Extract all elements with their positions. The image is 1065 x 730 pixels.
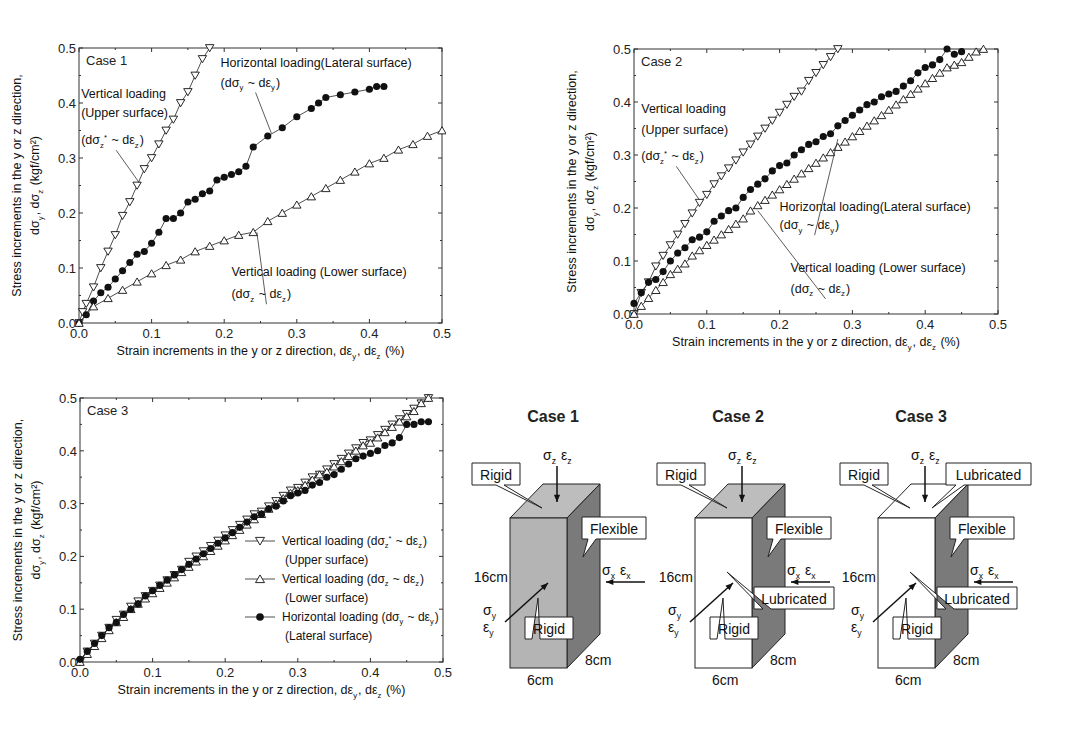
x-tick-label: 0.3: [289, 665, 307, 680]
marker-circle-filled: [206, 187, 213, 194]
marker-triangle-up: [834, 143, 842, 150]
marker-circle-filled: [164, 577, 171, 584]
eps-y-label: εy: [851, 619, 863, 638]
x-tick-label: 0.2: [771, 317, 789, 332]
marker-triangle-up: [885, 106, 893, 113]
marker-triangle-up: [724, 225, 732, 232]
marker-circle-filled: [120, 611, 127, 618]
front-lubricated-label: Lubricated: [761, 591, 826, 607]
marker-triangle-up: [220, 237, 228, 244]
marker-circle-filled: [322, 94, 329, 101]
marker-circle-filled: [113, 619, 120, 626]
marker-circle-filled: [308, 105, 315, 112]
marker-circle-filled: [885, 90, 892, 97]
marker-circle-filled: [199, 190, 206, 197]
x-tick-label: 0.5: [434, 665, 452, 680]
panel-title: Case 2: [641, 54, 682, 69]
x-tick-label: 0.1: [698, 317, 716, 332]
marker-triangle-up: [688, 252, 696, 259]
y-tick-label: 0.5: [59, 391, 77, 406]
diagram-title: Case 2: [712, 408, 764, 425]
marker-triangle-up: [863, 122, 871, 129]
diagram-case-3: Case 3σz εz RigidLubricatedFlexibleσx εx…: [840, 408, 1031, 688]
diagram-title: Case 1: [527, 408, 579, 425]
eps-y-label: εy: [668, 619, 680, 638]
top-rigid-label: Rigid: [665, 467, 697, 483]
marker-circle-filled: [163, 215, 170, 222]
marker-triangle-down: [118, 212, 126, 219]
marker-circle-filled: [105, 624, 112, 631]
top-rigid-label: Rigid: [848, 467, 880, 483]
marker-circle-filled: [265, 505, 272, 512]
marker-circle-filled: [798, 146, 805, 153]
y-tick-label: 0.4: [613, 95, 631, 110]
marker-triangle-down: [695, 199, 703, 206]
marker-circle-filled: [352, 455, 359, 462]
marker-circle-filled: [184, 198, 191, 205]
annotation-leader-line: [116, 150, 139, 183]
marker-circle-filled: [193, 555, 200, 562]
diagram-case-1: Case 1σz εz RigidFlexibleσx εx 16cmσy εy…: [472, 408, 646, 688]
panel-title: Case 3: [87, 403, 128, 418]
annotation-text: (dσy ~ dεy ): [780, 218, 840, 235]
legend-item: Vertical loading (dσz ~ dεz )(Lower surf…: [245, 572, 424, 605]
marker-circle-filled: [754, 181, 761, 188]
x-tick-label: 0.3: [288, 326, 306, 341]
svg-text:Stress increments in the y or: Stress increments in the y or z directio…: [11, 419, 25, 641]
marker-circle-filled: [236, 524, 243, 531]
marker-circle-filled: [630, 300, 637, 307]
marker-circle-filled: [91, 640, 98, 647]
marker-circle-filled: [149, 587, 156, 594]
svg-text:Stress increments in the y or: Stress increments in the y or z directio…: [565, 70, 579, 292]
marker-triangle-up: [957, 58, 965, 65]
marker-triangle-down: [710, 181, 718, 188]
marker-triangle-up: [877, 111, 885, 118]
marker-circle-filled: [381, 442, 388, 449]
marker-triangle-up: [892, 101, 900, 108]
marker-circle-filled: [849, 112, 856, 119]
annotation-text: (Upper surface): [81, 106, 168, 120]
chart-case-3: 0.00.10.20.30.40.50.00.10.20.30.40.5Stra…: [11, 391, 452, 700]
marker-circle-filled: [301, 487, 308, 494]
marker-circle-filled: [84, 648, 91, 655]
svg-text:dσy , dσz (kgf/cm²): dσy , dσz (kgf/cm²): [28, 136, 45, 235]
marker-triangle-up: [826, 149, 834, 156]
x-tick-label: 0.1: [144, 665, 162, 680]
marker-triangle-up: [921, 80, 929, 87]
marker-triangle-up: [950, 61, 958, 68]
x-axis-label: Strain increments in the y or z directio…: [118, 683, 406, 700]
marker-triangle-up: [936, 69, 944, 76]
marker-circle-filled: [410, 421, 417, 428]
marker-circle-filled: [213, 176, 220, 183]
marker-triangle-down: [133, 182, 141, 189]
marker-triangle-up: [855, 127, 863, 134]
y-tick-label: 0.5: [613, 42, 631, 57]
y-tick-label: 0.0: [58, 316, 76, 331]
marker-circle-filled: [148, 240, 155, 247]
marker-triangle-up: [732, 220, 740, 227]
marker-circle-filled: [396, 434, 403, 441]
marker-circle-filled: [907, 77, 914, 84]
y-axis-label: Stress increments in the y or z directio…: [11, 419, 46, 641]
y-tick-label: 0.0: [613, 307, 631, 322]
marker-circle-filled: [126, 259, 133, 266]
marker-circle-filled: [171, 571, 178, 578]
marker-triangle-down: [198, 56, 206, 63]
marker-circle-filled: [242, 163, 249, 170]
marker-triangle-up: [293, 201, 301, 208]
marker-circle-filled: [156, 582, 163, 589]
marker-circle-filled: [258, 511, 265, 518]
marker-triangle-down: [155, 141, 163, 148]
marker-circle-filled: [192, 196, 199, 203]
marker-circle-filled: [228, 171, 235, 178]
height-dimension: 16cm: [659, 569, 693, 585]
marker-triangle-up: [147, 270, 155, 277]
height-dimension: 16cm: [842, 569, 876, 585]
depth-dimension: 8cm: [953, 652, 979, 668]
marker-circle-filled: [914, 69, 921, 76]
marker-circle-filled: [229, 529, 236, 536]
y-tick-label: 0.4: [58, 96, 76, 111]
marker-circle-filled: [315, 99, 322, 106]
marker-circle-filled: [235, 168, 242, 175]
svg-text:dσy , dσz (kgf/cm²): dσy , dσz (kgf/cm²): [29, 481, 46, 580]
